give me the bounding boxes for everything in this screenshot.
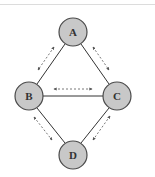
- edge-a-b: [37, 44, 65, 84]
- node-b: B: [15, 82, 43, 110]
- node-d-label: D: [69, 149, 77, 161]
- edge-b-d: [37, 108, 65, 143]
- node-a-label: A: [69, 26, 77, 38]
- network-diagram: A B C D: [0, 0, 155, 177]
- arrow-b-d: [34, 117, 52, 140]
- edge-c-d: [81, 108, 109, 143]
- arrow-c-d: [93, 116, 110, 140]
- node-c-label: C: [113, 90, 121, 102]
- node-d: D: [59, 141, 87, 169]
- arrow-a-b: [38, 47, 54, 70]
- node-c: C: [103, 82, 131, 110]
- edges: [37, 44, 109, 143]
- node-b-label: B: [25, 90, 33, 102]
- arrows: [34, 47, 110, 140]
- node-a: A: [59, 18, 87, 46]
- arrow-a-c: [93, 47, 109, 70]
